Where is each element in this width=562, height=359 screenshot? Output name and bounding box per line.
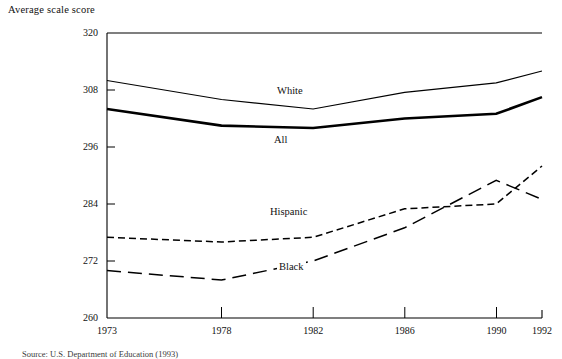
y-tick-label-260: 260 <box>68 312 98 323</box>
y-tick-marks <box>107 90 115 261</box>
series-line-black <box>107 180 542 280</box>
x-tick-label-1978: 1978 <box>192 325 252 336</box>
series-label-black: Black <box>277 261 306 272</box>
y-tick-label-308: 308 <box>68 84 98 95</box>
series-line-white <box>107 71 542 109</box>
y-tick-label-284: 284 <box>68 198 98 209</box>
y-tick-label-296: 296 <box>68 141 98 152</box>
x-tick-marks <box>222 307 497 318</box>
x-tick-label-1992: 1992 <box>512 325 562 336</box>
series-label-hispanic: Hispanic <box>268 206 309 217</box>
series-label-white: White <box>275 85 305 96</box>
y-tick-label-272: 272 <box>68 255 98 266</box>
series-label-all: All <box>272 134 289 145</box>
source-note: Source: U.S. Department of Education (19… <box>22 349 178 359</box>
x-tick-label-1982: 1982 <box>283 325 343 336</box>
x-tick-label-1973: 1973 <box>77 325 137 336</box>
series-line-all <box>107 97 542 128</box>
y-tick-label-320: 320 <box>68 27 98 38</box>
series-line-hispanic <box>107 166 542 242</box>
x-tick-label-1986: 1986 <box>375 325 435 336</box>
